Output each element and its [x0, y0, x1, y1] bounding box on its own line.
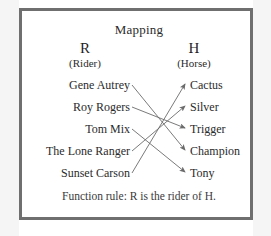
arrow-the-lone-ranger-to-silver [132, 106, 185, 151]
column-subtitle-horse: (Horse) [149, 57, 239, 70]
diagram-title: Mapping [22, 22, 256, 38]
column-letter-h: H [149, 40, 239, 57]
arrow-gene-autrey-to-champion [132, 85, 185, 150]
mapping-figure: Mapping R (Rider) H (Horse) Gene Autrey … [0, 0, 271, 236]
page-margin-left [0, 0, 19, 236]
diagram-frame: Mapping R (Rider) H (Horse) Gene Autrey … [19, 8, 253, 220]
column-header-horse: H (Horse) [149, 40, 239, 70]
column-subtitle-rider: (Rider) [40, 57, 130, 70]
rider-item-gene-autrey: Gene Autrey [69, 78, 130, 92]
horse-item-silver: Silver [190, 100, 219, 114]
horse-item-champion: Champion [190, 144, 240, 158]
arrow-sunset-carson-to-cactus [132, 84, 185, 173]
function-rule-text: Function rule: R is the rider of H. [22, 190, 256, 202]
rider-item-roy-rogers: Roy Rogers [73, 100, 130, 114]
rider-item-tom-mix: Tom Mix [85, 122, 130, 136]
arrow-roy-rogers-to-trigger [132, 107, 185, 128]
arrow-tom-mix-to-tony [132, 129, 185, 172]
horse-item-trigger: Trigger [190, 122, 226, 136]
rider-item-sunset-carson: Sunset Carson [61, 166, 130, 180]
horse-item-cactus: Cactus [190, 78, 223, 92]
horse-item-tony: Tony [190, 166, 215, 180]
rider-item-the-lone-ranger: The Lone Ranger [46, 144, 130, 158]
column-letter-r: R [40, 40, 130, 57]
column-header-rider: R (Rider) [40, 40, 130, 70]
